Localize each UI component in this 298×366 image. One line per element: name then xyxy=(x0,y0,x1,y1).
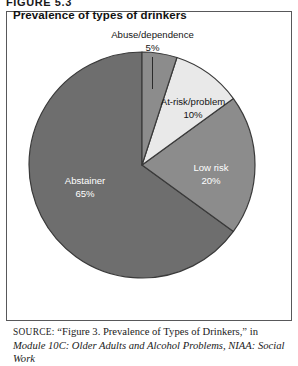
pie-label-at-risk: At-risk/problem xyxy=(161,96,226,107)
figure-title: Prevalence of types of drinkers xyxy=(13,9,187,21)
pie-value-low-risk: 20% xyxy=(201,175,221,186)
pie-label-low-risk: Low risk xyxy=(193,162,228,173)
pie-value-abstainer: 65% xyxy=(75,188,95,199)
source-note: SOURCE: “Figure 3. Prevalence of Types o… xyxy=(13,325,291,366)
pie-value-at-risk: 10% xyxy=(183,109,203,120)
pie-label-abstainer: Abstainer xyxy=(65,175,106,186)
pie-value-abuse-dependence: 5% xyxy=(146,42,160,53)
source-kicker: SOURCE: xyxy=(13,327,55,337)
pie-chart-svg: Abuse/dependence 5% At-risk/problem 10% … xyxy=(0,26,286,308)
source-line1-plain: “Figure 3. Prevalence of Types of Drinke… xyxy=(55,326,258,337)
pie-label-abuse-dependence: Abuse/dependence xyxy=(111,29,194,40)
source-line1-italic: Module xyxy=(13,340,45,351)
source-line2-italic: 10C: Older Adults and Alcohol Problems, … xyxy=(13,340,284,364)
pie-chart: Abuse/dependence 5% At-risk/problem 10% … xyxy=(0,26,286,308)
figure-number-label: FIGURE 5.3 xyxy=(6,0,72,8)
